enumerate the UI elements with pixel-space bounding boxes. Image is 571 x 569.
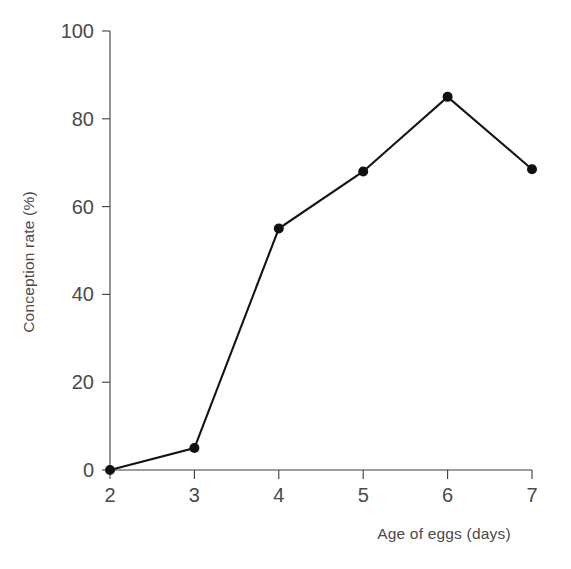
x-tick-label: 2 (104, 484, 115, 506)
y-tick-label: 0 (83, 459, 94, 481)
y-axis-title: Conception rate (%) (20, 191, 37, 333)
x-tick-label: 6 (442, 484, 453, 506)
data-point-marker (527, 164, 537, 174)
x-tick-label: 5 (358, 484, 369, 506)
y-tick-label: 100 (61, 20, 94, 42)
y-tick-label: 80 (72, 108, 94, 130)
x-tick-label: 7 (526, 484, 537, 506)
y-tick-label: 20 (72, 371, 94, 393)
data-point-marker (189, 443, 199, 453)
line-chart: 020406080100 234567 Conception rate (%) … (0, 0, 571, 569)
data-point-marker (358, 166, 368, 176)
y-tick-label: 40 (72, 283, 94, 305)
data-point-marker (443, 92, 453, 102)
x-axis-title: Age of eggs (days) (377, 525, 511, 542)
chart-container: 020406080100 234567 Conception rate (%) … (0, 0, 571, 569)
y-tick-label: 60 (72, 196, 94, 218)
x-tick-label: 4 (273, 484, 284, 506)
data-point-marker (105, 465, 115, 475)
data-point-marker (274, 224, 284, 234)
x-tick-label: 3 (189, 484, 200, 506)
